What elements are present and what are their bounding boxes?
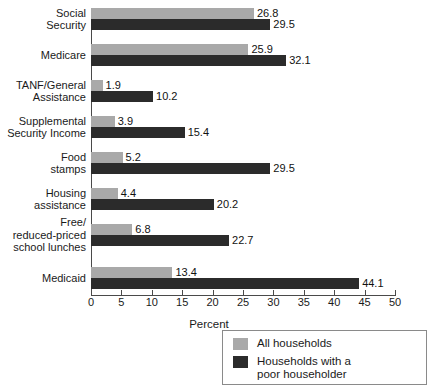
x-axis-title: Percent [0, 318, 444, 330]
bar-group: 13.444.1 [91, 267, 395, 290]
x-tick-label: 30 [267, 296, 279, 308]
x-tick-label: 50 [389, 296, 401, 308]
bar-value-label: 44.1 [362, 278, 383, 289]
category-label-line: Medicare [0, 49, 86, 62]
x-tick-label: 0 [88, 296, 94, 308]
x-axis-ticks: 05101520253035404550 [91, 295, 396, 315]
bar-group: 25.932.1 [91, 44, 395, 67]
category-label-line: Food [0, 151, 86, 164]
x-tick-label: 35 [298, 296, 310, 308]
bar [91, 278, 359, 289]
legend-swatch [233, 356, 248, 368]
bar [91, 163, 270, 174]
legend-label: All households [257, 337, 332, 350]
legend-label: Households with a poor householder [257, 355, 351, 381]
bar-group: 4.420.2 [91, 188, 395, 211]
x-tick-mark [243, 290, 244, 295]
bar-group: 26.829.5 [91, 8, 395, 31]
legend-swatch [233, 338, 248, 350]
bar-value-label: 15.4 [188, 127, 209, 138]
bar [91, 267, 172, 278]
category-label-line: Supplemental [0, 115, 86, 128]
bar-value-label: 29.5 [273, 163, 294, 174]
category-label-line: Housing [0, 187, 86, 200]
legend-item: All households [233, 337, 418, 350]
category-label-line: Medicaid [0, 272, 86, 285]
x-tick-mark [121, 290, 122, 295]
bar-group: 6.822.7 [91, 224, 395, 247]
bar [91, 91, 153, 102]
x-tick-mark [213, 290, 214, 295]
x-tick-label: 20 [206, 296, 218, 308]
x-tick-mark [304, 290, 305, 295]
category-label: TANF/GeneralAssistance [0, 79, 86, 104]
x-tick-mark [273, 290, 274, 295]
bar-value-label: 4.4 [121, 188, 136, 199]
bar-value-label: 13.4 [175, 267, 196, 278]
bar [91, 55, 286, 66]
x-tick-mark [152, 290, 153, 295]
bar [91, 8, 254, 19]
category-label: Housingassistance [0, 187, 86, 212]
x-tick-mark [182, 290, 183, 295]
category-axis-labels: SocialSecurityMedicareTANF/GeneralAssist… [0, 8, 86, 295]
x-tick-mark [395, 290, 396, 295]
bar [91, 80, 103, 91]
bar-value-label: 22.7 [232, 235, 253, 246]
bar-value-label: 25.9 [251, 44, 272, 55]
category-label-line: Security Income [0, 127, 86, 140]
legend-item: Households with a poor householder [233, 355, 418, 381]
category-label: Foodstamps [0, 151, 86, 176]
plot-area: 26.829.525.932.11.910.23.915.45.229.54.4… [91, 8, 395, 295]
bar-value-label: 20.2 [217, 199, 238, 210]
x-tick-mark [91, 290, 92, 295]
x-tick-label: 10 [146, 296, 158, 308]
x-tick-label: 15 [176, 296, 188, 308]
bar [91, 44, 248, 55]
category-label-line: assistance [0, 199, 86, 212]
category-label: Free/reduced-pricedschool lunches [0, 216, 86, 254]
x-tick-label: 45 [358, 296, 370, 308]
x-tick-label: 5 [118, 296, 124, 308]
category-label-line: Security [0, 19, 86, 32]
category-label-line: school lunches [0, 241, 86, 254]
bar [91, 235, 229, 246]
bar-value-label: 6.8 [135, 224, 150, 235]
bar [91, 19, 270, 30]
bar-value-label: 32.1 [289, 55, 310, 66]
bar [91, 199, 214, 210]
category-label-line: Free/ [0, 216, 86, 229]
bar-value-label: 1.9 [106, 80, 121, 91]
category-label-line: Social [0, 7, 86, 20]
bar [91, 152, 123, 163]
bar-chart: SocialSecurityMedicareTANF/GeneralAssist… [0, 0, 444, 389]
bar [91, 188, 118, 199]
category-label-line: TANF/General [0, 79, 86, 92]
x-axis-title-text: Percent [189, 318, 229, 330]
bar [91, 127, 185, 138]
category-label: SocialSecurity [0, 7, 86, 32]
bar-value-label: 5.2 [126, 152, 141, 163]
bar-value-label: 29.5 [273, 19, 294, 30]
bar [91, 116, 115, 127]
x-tick-mark [334, 290, 335, 295]
bar-group: 1.910.2 [91, 80, 395, 103]
bar-value-label: 10.2 [156, 91, 177, 102]
x-tick-label: 25 [237, 296, 249, 308]
category-label: Medicaid [0, 272, 86, 285]
category-label: SupplementalSecurity Income [0, 115, 86, 140]
bar [91, 224, 132, 235]
category-label-line: Assistance [0, 91, 86, 104]
category-label: Medicare [0, 49, 86, 62]
x-tick-label: 40 [328, 296, 340, 308]
chart-legend: All householdsHouseholds with a poor hou… [222, 330, 427, 385]
bar-value-label: 3.9 [118, 116, 133, 127]
bar-group: 3.915.4 [91, 116, 395, 139]
x-tick-mark [365, 290, 366, 295]
category-label-line: reduced-priced [0, 229, 86, 242]
category-label-line: stamps [0, 163, 86, 176]
bar-group: 5.229.5 [91, 152, 395, 175]
